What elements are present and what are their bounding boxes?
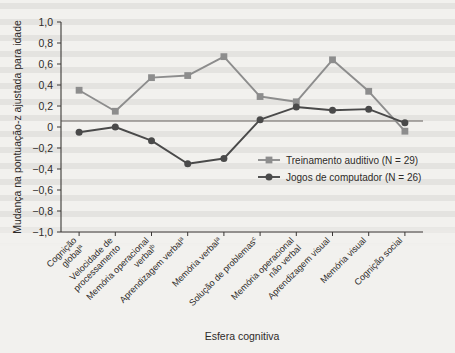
legend-label: Jogos de computador (N = 26)	[286, 172, 421, 183]
data-point	[184, 72, 191, 79]
data-point	[148, 137, 155, 144]
y-tick-label: 0,6	[38, 58, 53, 70]
data-point	[402, 128, 409, 135]
legend-marker	[266, 157, 273, 164]
data-point	[221, 53, 228, 60]
y-axis-title: Mudança na pontuação-z ajustada para ida…	[11, 20, 23, 234]
data-point	[76, 87, 83, 94]
chart-figure: 1,00,80,60,40,20−0,2−0,4−0,6−0,8−1,0 Cog…	[0, 0, 455, 353]
data-point	[329, 56, 336, 63]
data-point	[329, 107, 336, 114]
legend-item: Jogos de computador (N = 26)	[258, 172, 421, 183]
data-point	[365, 88, 372, 95]
data-point	[293, 104, 300, 111]
data-point	[112, 108, 119, 115]
x-category-superscript: c	[250, 235, 256, 241]
y-axis-ticks: 1,00,80,60,40,20−0,2−0,4−0,6−0,8−1,0	[32, 16, 61, 238]
y-tick-label: 0,4	[38, 79, 53, 91]
legend-item: Treinamento auditivo (N = 29)	[258, 155, 418, 166]
x-category-superscript: a	[178, 235, 185, 242]
x-category-label-line: Memória operacional	[229, 235, 296, 302]
y-tick-label: −0,2	[32, 142, 53, 154]
y-tick-label: −0,4	[32, 163, 53, 175]
y-tick-label: −0,6	[32, 184, 53, 196]
data-point	[365, 106, 372, 113]
y-tick-label: −0,8	[32, 205, 53, 217]
data-point	[401, 119, 408, 126]
data-point	[220, 155, 227, 162]
x-category-superscript: a	[77, 242, 84, 249]
legend-label: Treinamento auditivo (N = 29)	[286, 155, 418, 166]
legend-marker	[266, 174, 273, 181]
data-point	[112, 124, 119, 131]
x-category-label-line: Solução de problemasc	[187, 235, 260, 308]
y-tick-label: 1,0	[38, 16, 53, 28]
series-auditory-training	[76, 53, 409, 134]
data-point	[148, 74, 155, 81]
x-category-superscript: a	[214, 235, 221, 242]
y-tick-label: −1,0	[32, 226, 53, 238]
chart-svg: 1,00,80,60,40,20−0,2−0,4−0,6−0,8−1,0 Cog…	[0, 0, 455, 353]
chart-legend: Treinamento auditivo (N = 29)Jogos de co…	[258, 155, 421, 183]
x-axis-title: Esfera cognitiva	[205, 330, 280, 342]
y-tick-label: 0,8	[38, 37, 53, 49]
x-axis-category-labels: CogniçãoglobalaVelocidade deprocessament…	[45, 235, 405, 309]
x-category-label: Solução de problemasc	[187, 235, 260, 308]
series-layer	[76, 53, 409, 167]
y-tick-label: 0,2	[38, 100, 53, 112]
data-point	[76, 129, 83, 136]
data-point	[257, 93, 264, 100]
series-line	[79, 57, 405, 132]
data-point	[184, 160, 191, 167]
data-point	[257, 116, 264, 123]
x-category-superscript: b	[149, 242, 156, 249]
y-tick-label: 0	[47, 121, 53, 133]
x-axis-ticks	[79, 232, 405, 236]
